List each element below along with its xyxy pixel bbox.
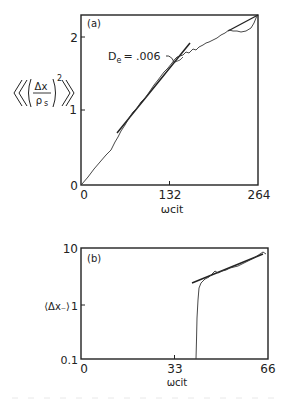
panel-a-ylabel-power: 2 [57, 74, 62, 83]
panel-b-curve [196, 252, 266, 359]
panel-a-xtick-label-132: 132 [159, 188, 182, 202]
panel-a-annotation: De= .006 [108, 50, 161, 65]
panel-b-ytick-label-10: 10 [63, 242, 78, 256]
panel-a: (a) 0 1 2 0 132 264 ωcit Δx ρ s 2 De= .0… [14, 15, 270, 216]
panel-a-label: (a) [87, 18, 101, 29]
panel-b-label: (b) [87, 253, 101, 264]
panel-b-xtick-label-0: 0 [80, 362, 88, 376]
panel-a-xtick-label-0: 0 [80, 188, 88, 202]
panel-a-xtick-label-264: 264 [248, 188, 271, 202]
panel-b-ylabel: ⟨Δx₋⟩ [44, 301, 70, 312]
panel-a-ytick-label-1: 1 [69, 103, 77, 117]
panel-b-xtick-label-33: 33 [167, 362, 182, 376]
panel-a-ylabel-denominator-sub: s [44, 99, 48, 108]
panel-a-ylabel-numerator: Δx [35, 81, 48, 92]
panel-a-ylabel: Δx ρ s 2 [14, 74, 74, 108]
figure: (a) 0 1 2 0 132 264 ωcit Δx ρ s 2 De= .0… [0, 0, 290, 402]
panel-b: (b) 10 1 0.1 ⟨Δx₋⟩ 0 33 66 ωcit [44, 242, 275, 388]
panel-a-frame [81, 15, 258, 185]
panel-b-xtick-label-66: 66 [260, 362, 275, 376]
panel-b-ytick-label-1: 1 [71, 300, 78, 313]
panel-a-ytick-label-0: 0 [70, 179, 78, 193]
panel-a-ylabel-denominator: ρ [36, 95, 42, 106]
panel-a-ytick-label-2: 2 [70, 31, 78, 45]
panel-a-xlabel: ωcit [161, 203, 184, 216]
panel-a-annotation-leader [166, 56, 174, 62]
panel-a-curve [82, 16, 257, 184]
panel-b-xlabel: ωcit [167, 377, 188, 388]
panel-b-ytick-label-0-1: 0.1 [61, 354, 79, 367]
